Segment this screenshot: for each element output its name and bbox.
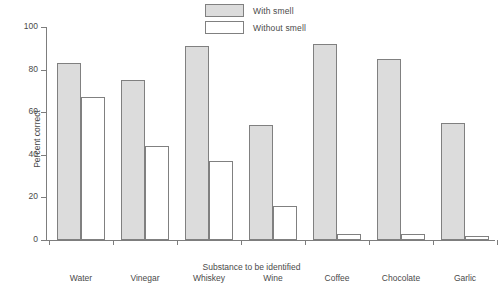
bar-water-with-smell — [57, 63, 81, 240]
bar-garlic-with-smell — [441, 123, 465, 240]
y-axis-line — [46, 27, 47, 240]
x-category-label-chocolate: Chocolate — [382, 273, 420, 283]
bar-vinegar-with-smell — [121, 80, 145, 240]
x-tick-mark — [177, 240, 178, 245]
bar-whiskey-without-smell — [209, 161, 233, 240]
bar-wine-without-smell — [273, 206, 297, 240]
bar-garlic-without-smell — [465, 236, 489, 240]
x-category-label-water: Water — [70, 273, 92, 283]
bar-vinegar-without-smell — [145, 146, 169, 240]
legend-label-with-smell: With smell — [253, 6, 294, 16]
x-category-label-whiskey: Whiskey — [193, 273, 225, 283]
x-tick-mark — [369, 240, 370, 245]
bar-chocolate-without-smell — [401, 234, 425, 240]
x-category-label-coffee: Coffee — [325, 273, 350, 283]
y-tick-mark — [41, 112, 46, 113]
bar-water-without-smell — [81, 97, 105, 240]
bar-chocolate-with-smell — [377, 59, 401, 240]
x-category-label-vinegar: Vinegar — [130, 273, 159, 283]
y-tick-label: 100 — [13, 21, 38, 31]
x-tick-mark — [497, 240, 498, 245]
legend-swatch-with-smell — [205, 4, 244, 17]
bar-coffee-without-smell — [337, 234, 361, 240]
x-tick-mark — [49, 240, 50, 245]
y-tick-label: 0 — [13, 234, 38, 244]
x-axis-label: Substance to be identified — [0, 262, 503, 272]
bar-coffee-with-smell — [313, 44, 337, 240]
y-tick-label: 80 — [13, 64, 38, 74]
bar-wine-with-smell — [249, 125, 273, 240]
y-tick-label: 40 — [13, 149, 38, 159]
x-tick-mark — [113, 240, 114, 245]
y-tick-mark — [41, 197, 46, 198]
legend-item-with-smell: With smell — [205, 4, 306, 17]
x-tick-mark — [433, 240, 434, 245]
y-tick-mark — [41, 155, 46, 156]
y-tick-label: 60 — [13, 106, 38, 116]
x-category-label-wine: Wine — [263, 273, 282, 283]
y-tick-mark — [41, 240, 46, 241]
x-tick-mark — [305, 240, 306, 245]
plot-area: 020406080100 WaterVinegarWhiskeyWineCoff… — [46, 27, 493, 240]
y-tick-mark — [41, 70, 46, 71]
y-tick-label: 20 — [13, 191, 38, 201]
y-axis-label: Percent correct — [32, 110, 42, 168]
x-category-label-garlic: Garlic — [454, 273, 476, 283]
x-tick-mark — [241, 240, 242, 245]
y-tick-mark — [41, 27, 46, 28]
bar-whiskey-with-smell — [185, 46, 209, 240]
